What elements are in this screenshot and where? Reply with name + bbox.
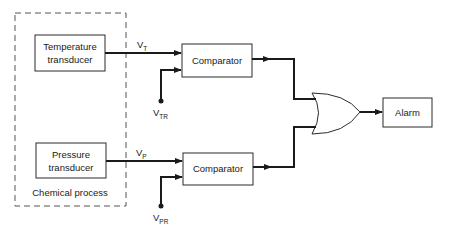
- vt-label: VT: [137, 39, 147, 52]
- chemical-process-label: Chemical process: [32, 187, 108, 198]
- block-diagram: Chemical process Temperature transducer …: [0, 0, 451, 236]
- alarm-block: Alarm: [383, 98, 432, 127]
- comparator-bottom-output-wire: [267, 127, 316, 167]
- alarm-label: Alarm: [395, 107, 420, 118]
- temperature-transducer-line2: transducer: [48, 54, 93, 65]
- temperature-transducer-block: Temperature transducer: [35, 35, 105, 71]
- vtr-label: VTR: [153, 107, 168, 120]
- vpr-reference-wire: [161, 177, 182, 206]
- vtr-terminal-dot: [159, 99, 164, 104]
- or-gate-symbol: [312, 93, 360, 134]
- comparator-top-label: Comparator: [192, 55, 242, 66]
- vpr-terminal-dot: [159, 204, 164, 209]
- vtr-reference-wire: [161, 70, 181, 101]
- comparator-top-block: Comparator: [182, 44, 252, 77]
- pressure-transducer-line1: Pressure: [52, 149, 90, 160]
- vp-label: VP: [136, 147, 147, 160]
- pressure-transducer-line2: transducer: [49, 162, 94, 173]
- comparator-bottom-block: Comparator: [183, 153, 253, 185]
- temperature-transducer-line1: Temperature: [43, 41, 96, 52]
- comparator-top-output-wire: [266, 59, 316, 99]
- vpr-label: VPR: [153, 212, 169, 225]
- pressure-transducer-block: Pressure transducer: [36, 143, 106, 178]
- comparator-bottom-label: Comparator: [193, 163, 243, 174]
